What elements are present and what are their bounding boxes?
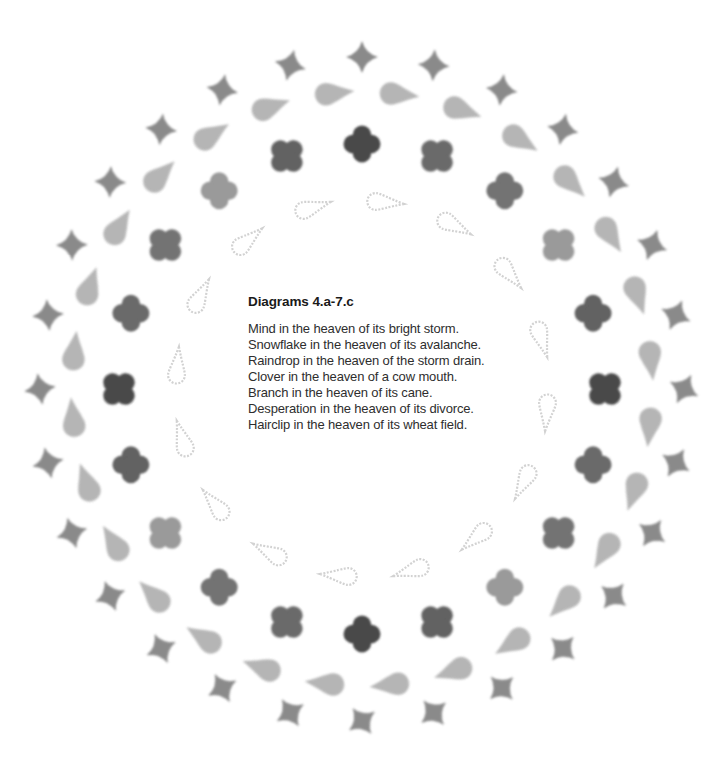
caption-line: Branch in the heaven of its cane. bbox=[248, 385, 528, 401]
teardrop-icon bbox=[69, 460, 103, 505]
teardrop-icon bbox=[585, 529, 625, 574]
quatrefoil-icon bbox=[575, 295, 612, 332]
outline-teardrop-icon bbox=[185, 275, 217, 316]
quatrefoil-icon bbox=[411, 596, 463, 648]
outline-teardrop-icon bbox=[528, 320, 555, 360]
quatrefoil-icon bbox=[411, 130, 463, 182]
sparkle-icon bbox=[31, 298, 66, 333]
outline-teardrop-icon bbox=[456, 520, 495, 557]
teardrop-icon bbox=[617, 470, 651, 515]
teardrop-icon bbox=[131, 573, 175, 617]
outline-teardrop-icon bbox=[229, 222, 268, 259]
outline-teardrop-icon bbox=[508, 462, 540, 503]
teardrop-icon bbox=[303, 670, 345, 697]
caption-line: Clover in the heaven of a cow mouth. bbox=[248, 369, 528, 385]
teardrop-icon bbox=[620, 273, 654, 318]
teardrop-icon bbox=[60, 396, 87, 438]
teardrop-icon bbox=[636, 406, 663, 448]
outline-teardrop-icon bbox=[537, 394, 557, 432]
sparkle-icon bbox=[204, 71, 241, 108]
sparkle-icon bbox=[22, 371, 59, 408]
teardrop-icon bbox=[249, 90, 294, 124]
sparkle-icon bbox=[271, 46, 310, 85]
caption-line: Hairclip in the heaven of its wheat fiel… bbox=[248, 417, 528, 433]
caption-line: Snowflake in the heaven of its avalanche… bbox=[248, 337, 528, 353]
sparkle-icon bbox=[29, 444, 67, 482]
quatrefoil-icon bbox=[486, 569, 523, 606]
caption-line: Raindrop in the heaven of the storm drai… bbox=[248, 353, 528, 369]
quatrefoil-icon bbox=[139, 219, 191, 271]
teardrop-icon bbox=[239, 651, 284, 685]
teardrop-icon bbox=[314, 80, 356, 107]
sparkle-icon bbox=[655, 294, 697, 336]
caption-line: Desperation in the heaven of its divorce… bbox=[248, 401, 528, 417]
sparkle-icon bbox=[632, 225, 673, 266]
quatrefoil-icon bbox=[93, 363, 145, 415]
teardrop-icon bbox=[379, 81, 421, 108]
sparkle-icon bbox=[140, 627, 182, 669]
quatrefoil-icon bbox=[201, 569, 238, 606]
teardrop-icon bbox=[99, 204, 139, 249]
sparkle-icon bbox=[544, 111, 582, 149]
teardrop-icon bbox=[430, 654, 475, 688]
teardrop-icon bbox=[139, 153, 183, 197]
caption-block: Diagrams 4.a-7.c Mind in the heaven of i… bbox=[248, 294, 528, 433]
sparkle-icon bbox=[52, 513, 92, 553]
outline-teardrop-icon bbox=[434, 210, 475, 242]
sparkle-icon bbox=[346, 41, 378, 73]
quatrefoil-icon bbox=[139, 507, 191, 559]
quatrefoil-icon bbox=[201, 172, 238, 209]
caption-line: Mind in the heaven of its bright storm. bbox=[248, 321, 528, 337]
teardrop-icon bbox=[541, 581, 585, 625]
outline-teardrop-icon bbox=[367, 192, 405, 212]
teardrop-icon bbox=[498, 120, 543, 160]
outline-teardrop-icon bbox=[167, 346, 187, 384]
quatrefoil-icon bbox=[261, 596, 313, 648]
teardrop-icon bbox=[637, 340, 664, 382]
outline-teardrop-icon bbox=[491, 254, 528, 293]
sparkle-icon bbox=[340, 699, 385, 744]
sparkle-icon bbox=[144, 112, 179, 147]
teardrop-icon bbox=[590, 213, 630, 258]
sparkle-icon bbox=[540, 626, 585, 671]
sparkle-icon bbox=[630, 511, 675, 556]
quatrefoil-icon bbox=[575, 446, 612, 483]
sparkle-icon bbox=[94, 165, 127, 198]
outline-teardrop-icon bbox=[391, 557, 431, 584]
quatrefoil-icon bbox=[344, 616, 381, 653]
teardrop-icon bbox=[440, 93, 485, 127]
quatrefoil-icon bbox=[261, 130, 313, 182]
sparkle-icon bbox=[662, 367, 705, 410]
sparkle-icon bbox=[417, 48, 451, 82]
outline-teardrop-icon bbox=[169, 418, 196, 458]
quatrefoil-icon bbox=[112, 446, 149, 483]
outline-teardrop-icon bbox=[196, 484, 233, 523]
quatrefoil-icon bbox=[112, 295, 149, 332]
sparkle-icon bbox=[484, 72, 520, 108]
sparkle-icon bbox=[56, 229, 89, 262]
sparkle-icon bbox=[268, 691, 312, 735]
sparkle-icon bbox=[201, 666, 244, 709]
teardrop-icon bbox=[368, 671, 410, 698]
teardrop-icon bbox=[94, 520, 134, 565]
quatrefoil-icon bbox=[532, 219, 584, 271]
teardrop-icon bbox=[489, 623, 534, 663]
quatrefoil-icon bbox=[579, 363, 631, 415]
teardrop-icon bbox=[73, 264, 107, 309]
sparkle-icon bbox=[479, 665, 524, 710]
sparkle-icon bbox=[594, 162, 633, 201]
sparkle-icon bbox=[654, 441, 698, 485]
caption-title: Diagrams 4.a-7.c bbox=[248, 294, 528, 309]
quatrefoil-icon bbox=[486, 172, 523, 209]
sparkle-icon bbox=[90, 575, 131, 616]
sparkle-icon bbox=[591, 574, 636, 619]
quatrefoil-icon bbox=[532, 507, 584, 559]
quatrefoil-icon bbox=[344, 126, 381, 163]
teardrop-icon bbox=[181, 618, 226, 658]
teardrop-icon bbox=[61, 330, 88, 372]
sparkle-icon bbox=[411, 690, 456, 735]
outline-teardrop-icon bbox=[319, 566, 357, 586]
teardrop-icon bbox=[549, 161, 593, 205]
outline-teardrop-icon bbox=[293, 194, 333, 221]
teardrop-icon bbox=[189, 115, 234, 155]
